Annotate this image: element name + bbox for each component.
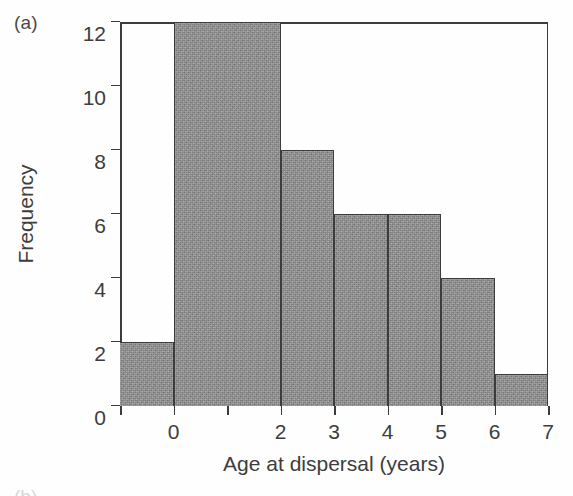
x-axis-tick-label: 3 xyxy=(328,420,340,444)
x-axis-tick-mark xyxy=(441,406,443,415)
x-axis-tick-mark xyxy=(334,406,336,415)
figure-histogram-panel-a: (a) Frequency 024681012 0234567 Age at d… xyxy=(0,0,573,496)
x-axis-title: Age at dispersal (years) xyxy=(120,452,548,476)
x-axis-tick-label: 0 xyxy=(168,420,180,444)
histogram-bar xyxy=(174,22,281,406)
x-axis-tick-mark xyxy=(227,406,229,415)
x-axis-tick-mark xyxy=(281,406,283,415)
histogram-bar xyxy=(120,342,174,406)
x-axis-tick-mark xyxy=(495,406,497,415)
y-axis-tick-mark xyxy=(111,85,120,87)
y-axis-tick-mark xyxy=(111,277,120,279)
plot-area: 024681012 0234567 xyxy=(120,22,548,406)
x-axis-tick-label: 7 xyxy=(542,420,554,444)
y-axis-tick-mark xyxy=(111,21,120,23)
x-axis-tick-mark xyxy=(548,406,550,415)
histogram-bar xyxy=(441,278,495,406)
x-axis-tick-mark xyxy=(388,406,390,415)
histogram-bar xyxy=(388,214,442,406)
y-axis-tick-mark xyxy=(111,405,120,407)
panel-label: (a) xyxy=(14,12,38,34)
x-axis-tick-label: 2 xyxy=(275,420,287,444)
x-axis-tick-mark xyxy=(120,406,122,415)
x-axis-tick-label: 5 xyxy=(435,420,447,444)
histogram-bar xyxy=(281,150,335,406)
histogram-bar xyxy=(334,214,388,406)
histogram-bar xyxy=(495,374,549,406)
bars-layer xyxy=(120,22,548,406)
next-panel-label-partial: (b) xyxy=(14,487,37,496)
y-axis-tick-mark xyxy=(111,213,120,215)
x-axis-tick-label: 6 xyxy=(489,420,501,444)
x-axis-tick-mark xyxy=(174,406,176,415)
y-axis-title: Frequency xyxy=(14,164,38,263)
x-axis-tick-label: 4 xyxy=(382,420,394,444)
y-axis-tick-mark xyxy=(111,341,120,343)
y-axis-tick-mark xyxy=(111,149,120,151)
